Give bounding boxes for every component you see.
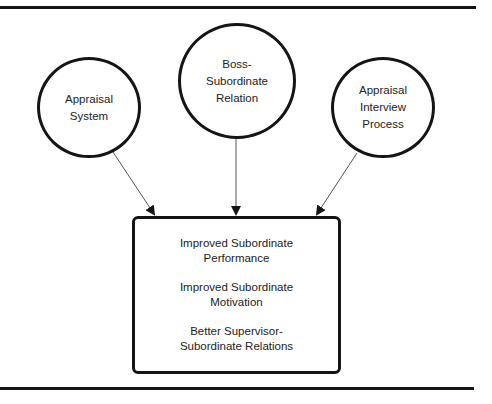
outcome-motivation: Improved Subordinate Motivation	[180, 280, 293, 310]
node-label-line: Boss-	[222, 56, 251, 73]
node-label-line: Appraisal	[359, 82, 407, 99]
outcome-line: Motivation	[180, 295, 293, 310]
node-label-line: System	[70, 108, 108, 125]
node-label-line: Interview	[360, 99, 406, 116]
arrow-appraisal-system	[113, 152, 154, 214]
arrow-appraisal-interview	[317, 153, 357, 214]
node-boss-subordinate-relation: Boss- Subordinate Relation	[178, 23, 296, 139]
outcome-line: Performance	[180, 251, 293, 266]
node-label-line: Subordinate	[206, 73, 268, 90]
node-label-line: Process	[362, 116, 404, 133]
node-label-line: Appraisal	[65, 91, 113, 108]
outcome-line: Improved Subordinate	[180, 280, 293, 295]
bottom-rule	[0, 387, 474, 390]
outcome-performance: Improved Subordinate Performance	[180, 236, 293, 266]
node-appraisal-interview-process: Appraisal Interview Process	[331, 57, 435, 158]
outcome-relations: Better Supervisor- Subordinate Relations	[180, 324, 293, 354]
outcomes-box: Improved Subordinate Performance Improve…	[132, 216, 341, 374]
outcome-line: Improved Subordinate	[180, 236, 293, 251]
node-appraisal-system: Appraisal System	[37, 57, 141, 158]
node-label-line: Relation	[216, 90, 258, 107]
outcome-line: Better Supervisor-	[180, 324, 293, 339]
outcome-line: Subordinate Relations	[180, 339, 293, 354]
